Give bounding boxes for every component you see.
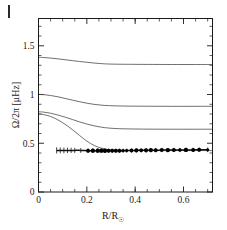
data-point xyxy=(121,149,124,152)
data-point xyxy=(86,149,90,153)
data-point xyxy=(134,148,138,152)
data-point xyxy=(191,148,195,152)
x-tick-label: 0.4 xyxy=(129,195,141,205)
model-curve xyxy=(39,112,213,129)
data-point xyxy=(172,148,176,152)
data-point xyxy=(160,148,164,152)
data-point xyxy=(130,149,134,153)
data-point xyxy=(144,148,148,152)
y-tick-label: 0.5 xyxy=(23,139,35,149)
major-tick-marks xyxy=(39,19,213,193)
data-point xyxy=(125,149,128,152)
data-point xyxy=(184,148,188,152)
data-point xyxy=(110,149,114,153)
svg-text:Ω/2π [μHz]: Ω/2π [μHz] xyxy=(10,82,21,128)
rotation-rate-chart: 00.20.40.6 00.511.5 R/R☉ Ω/2π [μHz] xyxy=(0,0,227,230)
x-tick-label: 0.2 xyxy=(81,195,93,205)
plot-frame xyxy=(39,19,213,193)
data-point xyxy=(139,148,143,152)
minor-tick-marks xyxy=(39,19,213,193)
model-curves-group xyxy=(39,57,213,150)
panel-corner-mark xyxy=(8,5,10,18)
model-curve xyxy=(39,114,213,151)
data-point xyxy=(178,148,182,152)
data-point xyxy=(197,148,201,152)
data-point xyxy=(149,148,153,152)
model-curve xyxy=(39,94,213,106)
data-point xyxy=(206,148,209,151)
data-point xyxy=(154,148,158,152)
x-axis-tick-labels: 00.20.40.6 xyxy=(36,195,190,205)
data-point xyxy=(107,149,111,153)
data-point xyxy=(166,148,170,152)
y-axis-tick-labels: 00.511.5 xyxy=(23,41,35,197)
y-tick-label: 0 xyxy=(30,187,35,197)
rotation-profile-figure: 00.20.40.6 00.511.5 R/R☉ Ω/2π [μHz] xyxy=(0,0,227,230)
data-point xyxy=(114,149,118,153)
y-axis-title: Ω/2π [μHz] xyxy=(10,82,21,128)
x-tick-label: 0 xyxy=(36,195,41,205)
data-point xyxy=(117,149,121,153)
data-point xyxy=(91,148,95,152)
data-point xyxy=(103,149,107,153)
y-tick-label: 1.5 xyxy=(23,41,35,51)
model-curve xyxy=(39,57,213,64)
x-axis-title: R/R☉ xyxy=(102,210,124,223)
y-tick-label: 1 xyxy=(30,90,35,100)
x-tick-label: 0.6 xyxy=(178,195,190,205)
